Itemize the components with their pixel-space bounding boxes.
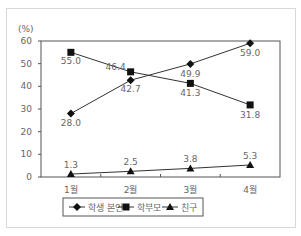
y-tick-label: 30 xyxy=(21,104,33,114)
y-tick-label: 0 xyxy=(26,172,32,182)
y-tick-label: 40 xyxy=(21,81,33,91)
data-label: 5.3 xyxy=(243,151,257,161)
y-tick-label: 10 xyxy=(21,149,33,159)
data-label: 49.9 xyxy=(180,69,200,79)
square-marker-icon xyxy=(123,204,130,211)
x-tick-label: 2월 xyxy=(124,184,138,195)
legend-label: 학부모 xyxy=(137,203,161,213)
data-label: 59.0 xyxy=(240,48,260,58)
square-marker-icon xyxy=(127,68,134,75)
diamond-marker-icon xyxy=(67,110,75,118)
legend-label: 친구 xyxy=(181,203,197,213)
diamond-marker-icon xyxy=(186,60,194,68)
y-tick-label: 50 xyxy=(21,59,33,69)
y-axis-unit-label: (%) xyxy=(18,24,34,34)
triangle-marker-icon xyxy=(246,161,254,168)
data-label: 41.3 xyxy=(180,88,200,98)
square-marker-icon xyxy=(247,101,254,108)
square-marker-icon xyxy=(67,49,74,56)
y-tick-label: 60 xyxy=(21,36,33,46)
data-label: 28.0 xyxy=(61,118,81,128)
x-tick-label: 4월 xyxy=(243,184,257,195)
data-label: 31.8 xyxy=(240,110,260,120)
data-label: 42.7 xyxy=(121,84,141,94)
data-label: 46.4 xyxy=(106,62,126,72)
data-label: 1.3 xyxy=(64,160,78,170)
series-2: 1.32.53.85.3 xyxy=(64,151,258,177)
legend-label: 학생 본인 xyxy=(88,203,123,213)
data-label: 2.5 xyxy=(123,157,137,167)
series-group: 28.042.749.959.055.046.441.331.81.32.53.… xyxy=(61,39,261,177)
series-0: 28.042.749.959.0 xyxy=(61,39,261,127)
series-1: 55.046.441.331.8 xyxy=(61,49,261,120)
line-chart: (%) 0102030405060 1월2월3월4월 28.042.749.95… xyxy=(0,0,301,236)
data-label: 3.8 xyxy=(183,154,198,164)
legend: 학생 본인학부모친구 xyxy=(63,198,203,216)
square-marker-icon xyxy=(187,80,194,87)
x-tick-label: 1월 xyxy=(64,184,78,195)
x-tick-label: 3월 xyxy=(184,184,198,195)
y-axis: 0102030405060 xyxy=(21,36,41,182)
data-label: 55.0 xyxy=(61,56,81,66)
y-tick-label: 20 xyxy=(21,127,33,137)
diamond-marker-icon xyxy=(127,76,135,84)
diamond-marker-icon xyxy=(246,39,254,47)
